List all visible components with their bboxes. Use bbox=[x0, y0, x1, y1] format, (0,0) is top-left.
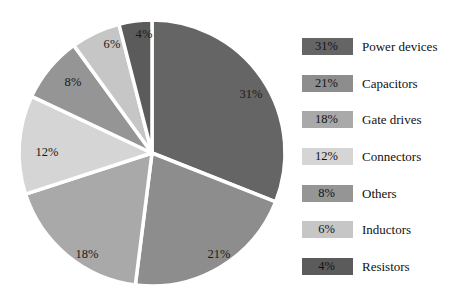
legend-color-swatch: 12% bbox=[302, 148, 353, 165]
slice-value-label: 8% bbox=[65, 75, 82, 90]
legend-percent: 31% bbox=[315, 40, 340, 53]
legend-color-swatch: 4% bbox=[302, 258, 353, 275]
slice-value-label: 18% bbox=[75, 247, 98, 262]
legend: 31%Power devices21%Capacitors18%Gate dri… bbox=[302, 30, 469, 280]
legend-percent: 8% bbox=[318, 187, 337, 200]
slice-value-label: 6% bbox=[104, 37, 121, 52]
slice-value-label: 4% bbox=[136, 27, 153, 42]
legend-percent: 6% bbox=[318, 223, 337, 236]
legend-percent: 18% bbox=[315, 113, 340, 126]
legend-item[interactable]: 8%Others bbox=[302, 185, 397, 202]
pie-plot-area: 31%21%18%12%8%6%4% bbox=[0, 0, 292, 307]
legend-label: Others bbox=[362, 187, 397, 200]
legend-percent: 12% bbox=[315, 150, 340, 163]
slice-value-label: 21% bbox=[207, 247, 230, 262]
legend-label: Capacitors bbox=[362, 77, 418, 90]
legend-color-swatch: 21% bbox=[302, 75, 353, 92]
legend-percent: 4% bbox=[318, 260, 337, 273]
legend-label: Power devices bbox=[362, 40, 437, 53]
legend-item[interactable]: 31%Power devices bbox=[302, 38, 437, 55]
legend-label: Gate drives bbox=[362, 113, 422, 126]
legend-item[interactable]: 12%Connectors bbox=[302, 148, 421, 165]
legend-item[interactable]: 6%Inductors bbox=[302, 221, 411, 238]
legend-label: Resistors bbox=[362, 260, 410, 273]
legend-item[interactable]: 21%Capacitors bbox=[302, 75, 418, 92]
pie-chart-figure: 31%21%18%12%8%6%4% 31%Power devices21%Ca… bbox=[0, 0, 469, 307]
legend-item[interactable]: 18%Gate drives bbox=[302, 111, 422, 128]
legend-item[interactable]: 4%Resistors bbox=[302, 258, 410, 275]
legend-color-swatch: 8% bbox=[302, 185, 353, 202]
legend-percent: 21% bbox=[315, 77, 340, 90]
legend-label: Connectors bbox=[362, 150, 421, 163]
legend-label: Inductors bbox=[362, 223, 411, 236]
slice-value-label: 12% bbox=[35, 145, 58, 160]
legend-color-swatch: 6% bbox=[302, 221, 353, 238]
legend-color-swatch: 31% bbox=[302, 38, 353, 55]
legend-color-swatch: 18% bbox=[302, 111, 353, 128]
slice-value-label: 31% bbox=[239, 87, 262, 102]
